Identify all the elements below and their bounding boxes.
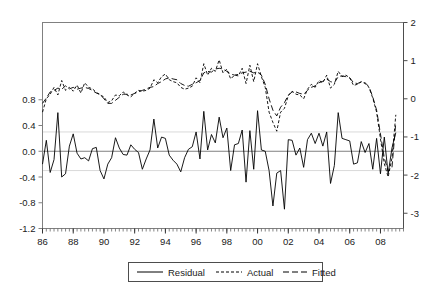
left-axis-tick-label: 0.4: [22, 120, 35, 131]
left-axis-tick-label: 0.8: [22, 94, 35, 105]
legend-label-residual: Residual: [168, 267, 205, 278]
left-axis-tick-label: 0.0: [22, 146, 35, 157]
right-axis-tick-label: 0: [411, 93, 416, 104]
right-axis-tick-label: -1: [411, 131, 419, 142]
chart-svg: 0.80.40.0-0.4-0.8-1.2 210-1-2-3 86889092…: [0, 0, 440, 295]
left-axis-tick-label: -1.2: [19, 223, 35, 234]
x-axis-tick-label: 04: [314, 236, 325, 247]
x-axis-tick-label: 88: [68, 236, 79, 247]
x-axis-tick-label: 06: [344, 236, 355, 247]
legend-label-actual: Actual: [247, 267, 273, 278]
x-axis-tick-label: 96: [191, 236, 202, 247]
right-axis-tick-label: -2: [411, 170, 419, 181]
right-axis-tick-label: -3: [411, 208, 419, 219]
residual-plot: 0.80.40.0-0.4-0.8-1.2 210-1-2-3 86889092…: [0, 0, 440, 295]
x-axis-tick-label: 94: [160, 236, 171, 247]
left-axis-tick-label: -0.8: [19, 197, 35, 208]
right-axis-tick-label: 1: [411, 55, 416, 66]
legend: Residual Actual Fitted: [129, 263, 336, 282]
x-axis-tick-label: 00: [252, 236, 263, 247]
x-axis-tick-label: 86: [37, 236, 48, 247]
left-axis-tick-label: -0.4: [19, 172, 35, 183]
x-axis-tick-label: 08: [375, 236, 386, 247]
chart-background: [0, 0, 440, 295]
x-axis-tick-label: 90: [99, 236, 110, 247]
x-axis-tick-label: 98: [222, 236, 233, 247]
legend-label-fitted: Fitted: [312, 267, 336, 278]
right-axis-tick-label: 2: [411, 17, 416, 28]
x-axis-tick-label: 92: [129, 236, 140, 247]
x-axis-tick-label: 02: [283, 236, 294, 247]
